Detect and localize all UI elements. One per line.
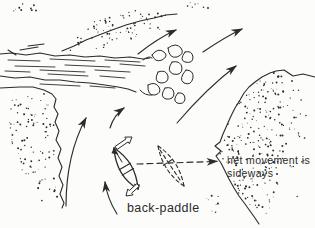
back-paddle-caption: back-paddle xyxy=(127,201,200,215)
log-bark-texture xyxy=(5,59,145,88)
net-movement-dashed-arrow xyxy=(137,161,217,164)
right-bank xyxy=(206,70,315,224)
current-arrow-top-right xyxy=(203,29,242,52)
canoe xyxy=(112,137,141,196)
left-bank xyxy=(0,87,64,208)
current-arrow-mid xyxy=(110,108,124,128)
net-movement-label-line2: sideways xyxy=(227,167,273,179)
diagram-canvas: net movement is sideways back-paddle xyxy=(0,0,315,228)
right-bank-edge xyxy=(215,70,315,224)
current-arrow-bottom xyxy=(105,182,117,214)
log-top-edge xyxy=(0,53,150,59)
top-left-corner-stipple xyxy=(13,3,37,11)
fallen-tree-log xyxy=(0,44,193,104)
log-broken-branches xyxy=(140,45,193,104)
ghost-canoe-position xyxy=(158,146,184,186)
top-bank-stipple xyxy=(70,10,166,51)
right-bank-lower-stipple xyxy=(206,195,218,213)
left-bank-stipple xyxy=(9,93,58,201)
right-bank-notch-stipple xyxy=(232,149,240,153)
right-bank-sparse-stipple xyxy=(290,90,307,198)
current-arrow-left-long xyxy=(66,118,86,206)
top-right-stipple xyxy=(187,2,209,9)
back-paddle-diagram: net movement is sideways back-paddle xyxy=(0,0,315,228)
canoe-bow-stroke-arrow xyxy=(115,137,132,150)
current-arrow-right xyxy=(177,66,236,123)
net-movement-label-line1: net movement is xyxy=(227,154,310,166)
right-bank-stipple xyxy=(219,72,294,214)
log-bottom-edge xyxy=(0,76,136,92)
